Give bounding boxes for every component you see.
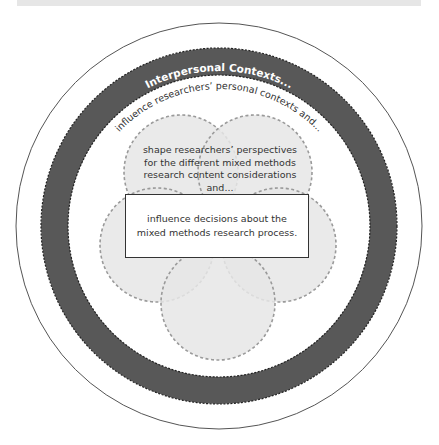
perspectives-text: shape researchers’ perspectives for the …: [138, 144, 302, 194]
petal-bottom: [161, 246, 275, 360]
decisions-text: influence decisions about the mixed meth…: [136, 212, 298, 240]
decisions-box: influence decisions about the mixed meth…: [125, 194, 309, 258]
